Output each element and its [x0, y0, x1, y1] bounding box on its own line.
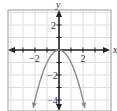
- parabola-chart: −222−2−4 y x: [0, 0, 117, 111]
- y-tick-label: −4: [47, 95, 58, 106]
- x-tick-label: −2: [29, 53, 40, 64]
- curve-arrow-icon: [32, 102, 37, 107]
- curve-arrow-icon: [81, 102, 86, 107]
- y-tick-label: 2: [51, 20, 56, 31]
- x-axis-label: x: [112, 44, 117, 55]
- y-tick-label: −2: [47, 70, 58, 81]
- y-axis-up-arrow-icon: [56, 10, 62, 17]
- x-tick-label: 2: [81, 53, 86, 64]
- y-axis-label: y: [55, 0, 61, 10]
